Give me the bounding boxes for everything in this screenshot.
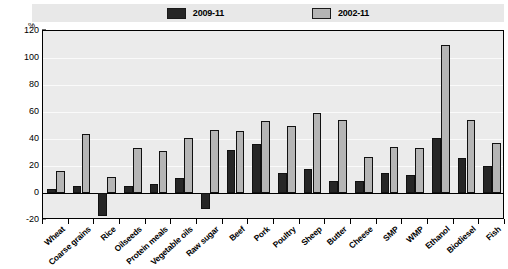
bar [73,186,81,193]
bar [261,121,269,193]
bar [492,143,500,193]
x-tick-label: Beef [227,224,247,243]
bar [287,126,295,194]
x-tick-label: Sheep [299,224,324,248]
y-tick-label: -20 [26,214,39,224]
bar [210,130,218,193]
bar [355,181,363,193]
x-axis-labels: WheatCoarse grainsRiceOilseedsProtein me… [42,224,504,269]
y-tick-label: 40 [29,133,39,143]
x-tick-mark [504,219,505,224]
bar [467,120,475,193]
bar [82,134,90,193]
bar [252,144,260,193]
bar [47,189,55,193]
x-tick-label: Butter [325,224,349,247]
y-tick-label: 80 [29,79,39,89]
bar [56,171,64,193]
y-tick-label: 120 [24,25,39,35]
bars-layer [43,31,503,218]
bar-chart: 2009-11 2002-11 % -20020406080100120 Whe… [0,0,508,269]
bar [406,175,414,193]
bar [107,177,115,193]
y-tick-label: 100 [24,52,39,62]
x-tick-label: Pork [252,224,272,243]
bar [458,158,466,193]
bar [432,138,440,193]
bar [150,184,158,193]
y-tick-label: 20 [29,160,39,170]
bar [159,151,167,193]
x-tick-label: WMP [404,224,425,245]
legend-swatch-light [312,8,331,19]
bar [329,181,337,193]
bar [175,178,183,193]
bar [236,131,244,193]
bar [390,147,398,193]
x-tick-label: Cheese [347,224,375,251]
bar [278,173,286,193]
bar [98,193,106,216]
bar [381,173,389,193]
x-tick-label: Poultry [270,224,297,250]
bar [415,148,423,193]
bar [124,186,132,193]
legend-item-2009-11: 2009-11 [167,8,224,19]
bar [313,113,321,193]
bar [201,193,209,209]
x-tick-label: Rice [99,224,118,243]
plot-area [42,30,504,219]
y-tick-label: 60 [29,106,39,116]
bar [227,150,235,193]
y-tick-label: 0 [34,187,39,197]
legend-label-2002-11: 2002-11 [338,8,369,18]
chart-legend: 2009-11 2002-11 [32,4,504,22]
bar [483,166,491,193]
bar [184,138,192,193]
bar [441,45,449,194]
bar [364,157,372,193]
y-axis: -20020406080100120 [0,30,42,219]
legend-item-2002-11: 2002-11 [312,8,369,19]
legend-swatch-dark [167,8,186,19]
x-tick-label: SMP [380,224,400,243]
bar [338,120,346,193]
x-tick-label: Fish [484,224,503,242]
bar [133,148,141,193]
bar [304,169,312,193]
legend-label-2009-11: 2009-11 [193,8,224,18]
